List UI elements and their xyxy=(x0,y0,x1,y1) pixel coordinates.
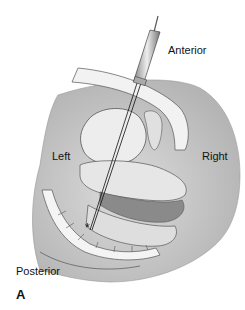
syringe-icon xyxy=(134,30,160,82)
label-left: Left xyxy=(52,150,70,162)
target-asterisk-icon: * xyxy=(85,221,90,235)
label-posterior: Posterior xyxy=(16,265,60,277)
panel-label: A xyxy=(16,287,25,302)
label-anterior: Anterior xyxy=(168,44,207,56)
needle-tip xyxy=(154,16,158,32)
label-right: Right xyxy=(202,150,228,162)
